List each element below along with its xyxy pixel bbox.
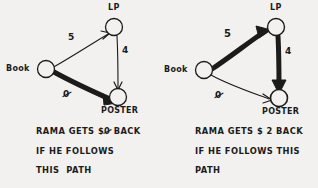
edge-lp-poster-bold — [272, 36, 286, 94]
caption-line-2-left: IF HE FOLLOWS — [36, 146, 114, 156]
caption-line-1-left: RAMA GETS $0 BACK — [36, 126, 141, 136]
caption-line-3-left: THIS PATH — [36, 165, 92, 175]
edge-weight-book-poster: 0 — [63, 89, 70, 99]
node-lp — [106, 19, 123, 36]
edge-weight-lp-poster: 4 — [285, 46, 292, 56]
edge-lp-poster — [114, 36, 122, 90]
edge-weight-book-lp: 5 — [68, 32, 75, 42]
node-poster — [271, 90, 288, 107]
node-label-book: Book — [6, 64, 30, 73]
diagram-panel-left: Book LP POSTER 5 4 0 RAMA GETS $0 BACK I… — [0, 0, 159, 188]
diagram-canvas: Book LP POSTER 5 4 0 RAMA GETS $0 BACK I… — [0, 0, 318, 188]
node-label-poster: POSTER — [101, 106, 138, 115]
edge-weight-book-lp: 5 — [224, 28, 231, 39]
node-label-lp: LP — [108, 3, 120, 12]
edge-weight-book-poster: 0 — [215, 90, 222, 100]
node-book — [38, 61, 55, 78]
graph-drawing-left — [0, 0, 159, 188]
caption-line-2-right: IF HE FOLLOWS THIS — [195, 146, 300, 156]
node-label-poster: POSTER — [262, 107, 299, 116]
node-poster — [110, 89, 127, 106]
node-label-lp: LP — [270, 3, 282, 12]
node-book — [196, 62, 213, 79]
graph-drawing-right — [159, 0, 318, 188]
node-lp — [268, 19, 285, 36]
caption-line-1-right: RAMA GETS $ 2 BACK — [195, 126, 303, 136]
edge-book-lp — [52, 31, 110, 68]
caption-line-3-right: PATH — [195, 165, 221, 175]
diagram-panel-right: Book LP POSTER 5 4 0 RAMA GETS $ 2 BACK … — [159, 0, 318, 188]
edge-book-lp-bold — [212, 26, 271, 69]
edge-weight-lp-poster: 4 — [122, 45, 129, 55]
node-label-book: Book — [164, 65, 188, 74]
